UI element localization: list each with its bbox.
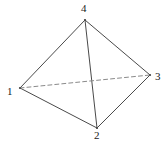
- tetrahedron-figure: 1234: [0, 0, 167, 144]
- edge-1-4: [20, 20, 85, 88]
- tetrahedron-graph: [0, 0, 167, 144]
- vertex-label-1: 1: [7, 86, 13, 97]
- edge-1-3: [20, 75, 150, 88]
- vertex-point-1: [19, 87, 21, 89]
- edge-1-2: [20, 88, 97, 128]
- vertex-point-3: [149, 74, 151, 76]
- edge-2-3: [97, 75, 150, 128]
- edge-2-4: [85, 20, 97, 128]
- vertex-label-4: 4: [81, 3, 87, 14]
- vertex-label-2: 2: [94, 130, 100, 141]
- edge-3-4: [85, 20, 150, 75]
- vertex-group: [19, 19, 151, 129]
- vertex-point-4: [84, 19, 86, 21]
- vertex-label-3: 3: [155, 71, 161, 82]
- edge-group: [20, 20, 150, 128]
